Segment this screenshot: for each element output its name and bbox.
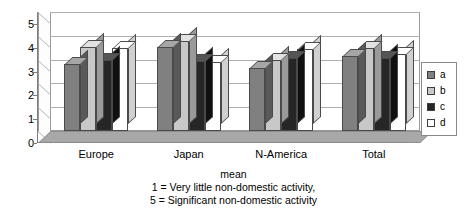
y-axis-tick-mark <box>33 72 37 73</box>
y-axis-tick-label: 0 <box>20 138 34 149</box>
plot-floor-front-edge <box>38 142 408 143</box>
bar-chart: 012345 EuropeJapanN-AmericaTotal abcd me… <box>0 0 467 223</box>
bar-front-face <box>64 64 80 131</box>
caption-line-mean: mean <box>0 168 467 181</box>
bar-front-face <box>342 56 358 131</box>
bar-japan-a <box>157 47 173 131</box>
gridline <box>50 12 420 13</box>
y-axis-tick-label: 3 <box>20 67 34 78</box>
y-axis-tick-mark <box>33 119 37 120</box>
y-axis-tick-label: 4 <box>20 43 34 54</box>
y-axis-tick-mark <box>33 143 37 144</box>
y-axis-tick-label: 5 <box>20 19 34 30</box>
legend-item-b[interactable]: b <box>427 83 456 99</box>
gridline <box>50 36 420 37</box>
legend-swatch-icon <box>427 71 435 79</box>
legend-swatch-icon <box>427 103 435 111</box>
legend-swatch-icon <box>427 87 435 95</box>
legend-item-c[interactable]: c <box>427 99 456 115</box>
caption-line-scale-low: 1 = Very little non-domestic activity, <box>0 181 467 194</box>
bar-europe-a <box>64 64 80 131</box>
legend-item-label: c <box>440 102 445 112</box>
x-axis-label-japan: Japan <box>137 148 241 160</box>
legend-item-a[interactable]: a <box>427 67 456 83</box>
bar-front-face <box>249 68 265 131</box>
legend: abcd <box>421 62 457 136</box>
bar-total-a <box>342 56 358 131</box>
x-axis-label-n-america: N-America <box>229 148 333 160</box>
y-axis-tick-mark <box>33 24 37 25</box>
y-axis-tick-label: 2 <box>20 90 34 101</box>
legend-item-label: d <box>440 118 446 128</box>
chart-caption: mean 1 = Very little non-domestic activi… <box>0 168 467 207</box>
y-axis-tick-mark <box>33 95 37 96</box>
x-axis-label-europe: Europe <box>44 148 148 160</box>
legend-item-d[interactable]: d <box>427 115 456 131</box>
y-axis-tick-mark <box>33 48 37 49</box>
legend-swatch-icon <box>427 119 435 127</box>
y-axis-tick-label: 1 <box>20 114 34 125</box>
legend-item-label: a <box>440 70 446 80</box>
caption-line-scale-high: 5 = Significant non-domestic activity <box>0 194 467 207</box>
plot-area <box>38 12 420 143</box>
legend-item-label: b <box>440 86 446 96</box>
bar-front-face <box>157 47 173 131</box>
x-axis-label-total: Total <box>322 148 426 160</box>
bar-n-america-a <box>249 68 265 131</box>
y-axis-line <box>37 12 38 143</box>
